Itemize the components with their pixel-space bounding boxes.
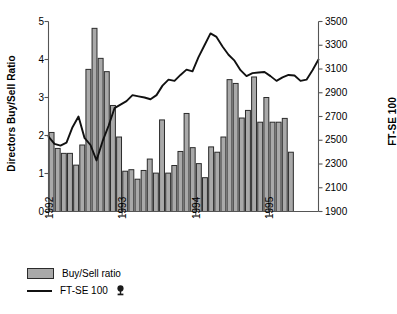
- line-swatch-icon: [27, 286, 52, 295]
- scan-artifact-icon: [116, 285, 125, 296]
- x-axis-tick-label: 1995: [265, 196, 275, 218]
- bar-swatch-icon: [27, 268, 54, 279]
- legend-label-ftse-100: FT-SE 100: [60, 285, 108, 296]
- chart-legend: Buy/Sell ratio FT-SE 100: [27, 265, 121, 299]
- legend-item-ftse-100: FT-SE 100: [27, 282, 121, 299]
- x-axis-tick-label: 1992: [45, 196, 55, 218]
- x-axis-tick-label: 1993: [118, 196, 128, 218]
- legend-item-buy-sell-ratio: Buy/Sell ratio: [27, 265, 121, 282]
- legend-label-buy-sell-ratio: Buy/Sell ratio: [62, 268, 121, 279]
- x-axis-tick-label: 1994: [192, 196, 202, 218]
- chart-figure: Directors Buy/Sell Ratio FT-SE 100 01234…: [0, 0, 397, 314]
